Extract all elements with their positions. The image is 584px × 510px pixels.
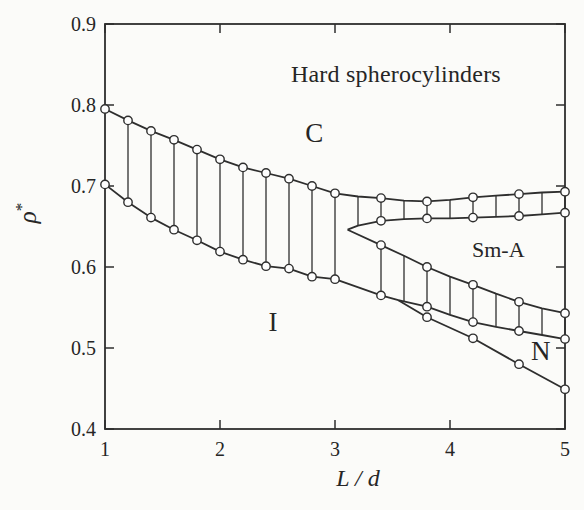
data-point-marker (469, 193, 477, 201)
data-point-marker (423, 313, 431, 321)
phase-label-smectic-a: Sm-A (472, 237, 525, 263)
y-tick-label-0.5: 0.5 (71, 337, 96, 360)
x-axis-label: L / d (336, 465, 380, 492)
data-point-marker (170, 136, 178, 144)
data-point-marker (561, 188, 569, 196)
data-point-marker (285, 264, 293, 272)
data-point-marker (515, 360, 523, 368)
data-point-marker (423, 263, 431, 271)
data-point-marker (170, 226, 178, 234)
y-tick-label-0.9: 0.9 (71, 13, 96, 36)
data-point-marker (308, 182, 316, 190)
y-axis-label: ρ* (12, 203, 42, 224)
data-point-marker (262, 262, 270, 270)
y-axis-label-symbol: ρ (14, 211, 41, 223)
data-point-marker (101, 180, 109, 188)
data-point-marker (423, 197, 431, 205)
data-point-marker (124, 116, 132, 124)
data-point-marker (331, 275, 339, 283)
y-tick-label-0.4: 0.4 (71, 418, 96, 441)
phase-label-crystal: C (305, 118, 323, 149)
chart-title: Hard spherocylinders (291, 61, 501, 88)
x-tick-label-4: 4 (445, 438, 455, 461)
data-point-marker (377, 291, 385, 299)
data-point-marker (423, 214, 431, 222)
data-point-marker (469, 213, 477, 221)
data-point-marker (469, 318, 477, 326)
phase-diagram-figure: ρ* L / d Hard spherocylinders C I Sm-A N… (0, 0, 584, 510)
curve-smc-upper (335, 192, 565, 202)
phase-label-isotropic: I (268, 307, 277, 338)
x-tick-label-1: 1 (100, 438, 110, 461)
y-tick-label-0.8: 0.8 (71, 94, 96, 117)
data-point-marker (331, 189, 339, 197)
x-tick-label-5: 5 (560, 438, 570, 461)
x-tick-label-2: 2 (215, 438, 225, 461)
data-point-marker (193, 145, 201, 153)
data-point-marker (239, 256, 247, 264)
data-point-marker (515, 298, 523, 306)
data-point-marker (377, 241, 385, 249)
data-point-marker (216, 155, 224, 163)
data-point-marker (515, 327, 523, 335)
data-point-marker (285, 175, 293, 183)
phase-label-nematic: N (531, 336, 551, 367)
data-point-marker (469, 334, 477, 342)
data-point-marker (561, 309, 569, 317)
y-axis-label-superscript: * (12, 203, 31, 212)
data-point-marker (101, 105, 109, 113)
data-point-marker (515, 190, 523, 198)
data-point-marker (147, 213, 155, 221)
data-point-marker (262, 169, 270, 177)
data-point-marker (469, 281, 477, 289)
data-point-marker (423, 303, 431, 311)
data-point-marker (561, 335, 569, 343)
data-point-marker (377, 194, 385, 202)
data-point-marker (124, 198, 132, 206)
x-tick-label-3: 3 (330, 438, 340, 461)
data-point-marker (216, 247, 224, 255)
y-tick-label-0.6: 0.6 (71, 256, 96, 279)
data-point-marker (308, 273, 316, 281)
data-point-marker (377, 217, 385, 225)
data-point-marker (561, 385, 569, 393)
data-point-marker (515, 212, 523, 220)
data-point-marker (193, 236, 201, 244)
data-point-marker (561, 209, 569, 217)
data-point-marker (239, 163, 247, 171)
y-tick-label-0.7: 0.7 (71, 175, 96, 198)
data-point-marker (147, 127, 155, 135)
